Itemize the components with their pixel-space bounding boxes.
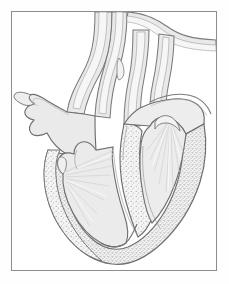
arch-branch-stub xyxy=(117,58,124,80)
heart-illustration xyxy=(0,0,229,284)
figure-panel xyxy=(0,0,229,284)
heart-anatomy-svg xyxy=(0,0,229,284)
